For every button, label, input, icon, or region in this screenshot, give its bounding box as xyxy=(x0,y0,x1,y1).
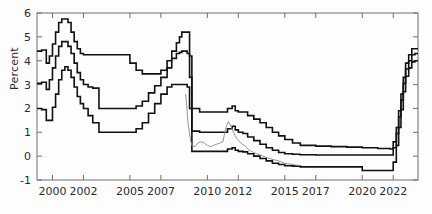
y-tick-label: 5 xyxy=(24,31,31,44)
x-tick-label: 2012 xyxy=(224,185,252,198)
x-tick-label: 2017 xyxy=(302,185,330,198)
x-tick-labels: 2000200220052007201020122015201720202022 xyxy=(38,185,407,198)
x-tick-label: 2005 xyxy=(116,185,144,198)
y-tick-label: 6 xyxy=(24,7,31,20)
x-tick-label: 2007 xyxy=(147,185,175,198)
chart-plot-area: -10123456 200020022005200720102012201520… xyxy=(0,0,432,214)
y-tick-label: 3 xyxy=(24,79,31,92)
y-tick-label: 2 xyxy=(24,102,31,115)
x-tick-label: 2000 xyxy=(38,185,66,198)
data-series xyxy=(37,19,418,170)
y-tick-label: 0 xyxy=(24,150,31,163)
series-middle-band xyxy=(37,42,418,155)
x-tick-label: 2015 xyxy=(271,185,299,198)
x-tick-label: 2022 xyxy=(379,185,407,198)
y-tick-label: -1 xyxy=(20,174,31,187)
y-tick-labels: -10123456 xyxy=(20,7,31,187)
x-tick-label: 2002 xyxy=(69,185,97,198)
series-lower-band xyxy=(37,61,418,171)
x-tick-label: 2020 xyxy=(348,185,376,198)
series-actual-rate xyxy=(186,94,301,166)
y-tick-label: 1 xyxy=(24,126,31,139)
x-tick-label: 2010 xyxy=(193,185,221,198)
y-tick-label: 4 xyxy=(24,55,31,68)
chart-figure: Percent -10123456 2000200220052007201020… xyxy=(0,0,432,214)
